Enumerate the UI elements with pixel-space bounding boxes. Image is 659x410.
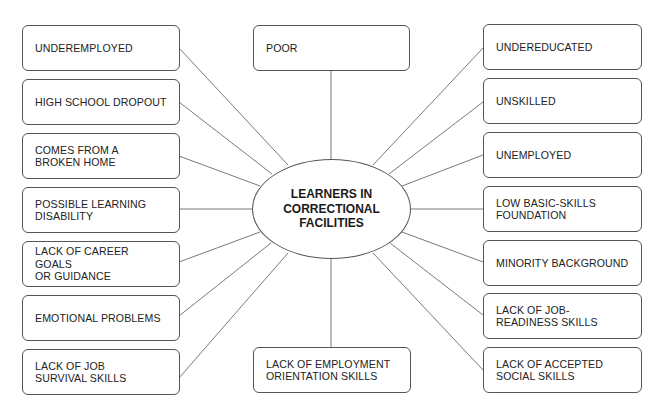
node-minority-background: MINORITY BACKGROUND (483, 240, 642, 286)
connector-job-readiness (390, 243, 483, 315)
node-emotional-problems: EMOTIONAL PROBLEMS (22, 295, 180, 341)
node-broken-home: COMES FROM A BROKEN HOME (22, 133, 180, 179)
node-label: UNDEREDUCATED (496, 41, 592, 54)
connector-minority-background (402, 232, 483, 262)
node-lack-of-accepted-social-skills: LACK OF ACCEPTED SOCIAL SKILLS (483, 347, 642, 393)
node-label: LACK OF JOB- READINESS SKILLS (496, 304, 598, 329)
node-unemployed: UNEMPLOYED (483, 132, 642, 178)
node-label: LACK OF JOB SURVIVAL SKILLS (35, 360, 126, 385)
node-label: LACK OF EMPLOYMENT ORIENTATION SKILLS (266, 358, 390, 383)
node-label: LACK OF ACCEPTED SOCIAL SKILLS (496, 358, 603, 383)
node-label: UNDEREMPLOYED (35, 42, 133, 55)
node-unskilled: UNSKILLED (483, 78, 642, 124)
node-undereducated: UNDEREDUCATED (483, 24, 642, 70)
center-node-learners: LEARNERS IN CORRECTIONAL FACILITIES (252, 159, 411, 259)
node-lack-of-career-goals: LACK OF CAREER GOALS OR GUIDANCE (22, 241, 180, 287)
node-lack-of-job-survival-skills: LACK OF JOB SURVIVAL SKILLS (22, 349, 180, 395)
node-label: MINORITY BACKGROUND (496, 257, 628, 270)
node-label: EMOTIONAL PROBLEMS (35, 312, 161, 325)
node-high-school-dropout: HIGH SCHOOL DROPOUT (22, 79, 180, 125)
spider-diagram: LEARNERS IN CORRECTIONAL FACILITIES POOR… (0, 0, 659, 410)
connector-career-goals (179, 232, 260, 262)
node-label: COMES FROM A BROKEN HOME (35, 144, 119, 169)
node-label: POSSIBLE LEARNING DISABILITY (35, 198, 146, 223)
connector-unemployed (402, 155, 483, 186)
node-low-basic-skills-foundation: LOW BASIC-SKILLS FOUNDATION (483, 186, 642, 232)
node-lack-of-employment-orientation-skills: LACK OF EMPLOYMENT ORIENTATION SKILLS (253, 347, 411, 393)
node-label: LOW BASIC-SKILLS FOUNDATION (496, 197, 596, 222)
connector-emotional-problems (179, 243, 271, 316)
node-possible-learning-disability: POSSIBLE LEARNING DISABILITY (22, 187, 180, 233)
node-poor: POOR (253, 25, 410, 71)
node-label: HIGH SCHOOL DROPOUT (35, 96, 167, 109)
node-label: UNSKILLED (496, 95, 556, 108)
node-label: POOR (266, 42, 298, 55)
center-node-label: LEARNERS IN CORRECTIONAL FACILITIES (283, 187, 380, 231)
node-label: UNEMPLOYED (496, 149, 571, 162)
node-lack-of-job-readiness-skills: LACK OF JOB- READINESS SKILLS (483, 293, 642, 339)
node-label: LACK OF CAREER GOALS OR GUIDANCE (35, 245, 168, 283)
node-underemployed: UNDEREMPLOYED (22, 25, 180, 71)
connector-high-school-dropout (179, 102, 272, 174)
connector-broken-home (179, 156, 260, 186)
connector-unskilled (389, 102, 483, 174)
